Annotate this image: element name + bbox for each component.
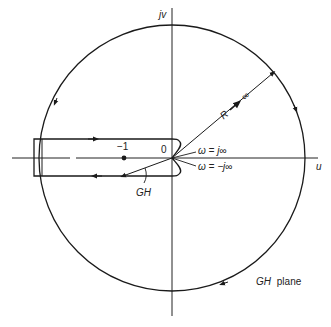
plane-word: plane [277, 276, 302, 287]
circle-arrow-upper-left [55, 98, 57, 103]
vertical-axis-label: jv [157, 9, 167, 20]
radius-arrowhead [230, 103, 238, 110]
minus-one-point [122, 156, 127, 161]
plane-gh: GH [256, 276, 272, 287]
omega-minus-label: ω = −j∞ [198, 161, 232, 172]
origin-label: 0 [161, 144, 167, 155]
horizontal-axis-label: u [316, 161, 322, 172]
gh-label: GH [136, 187, 152, 198]
minus-one-label: −1 [117, 141, 129, 152]
circle-arrow-lower [222, 282, 228, 284]
gh-vector [123, 158, 172, 176]
nyquist-diagram: jv u 0 −1 R ∞ ω = j∞ ω = −j∞ GH GH plane [0, 0, 331, 327]
omega-plus-label: ω = j∞ [198, 145, 227, 156]
plane-label: GH plane [256, 276, 302, 287]
